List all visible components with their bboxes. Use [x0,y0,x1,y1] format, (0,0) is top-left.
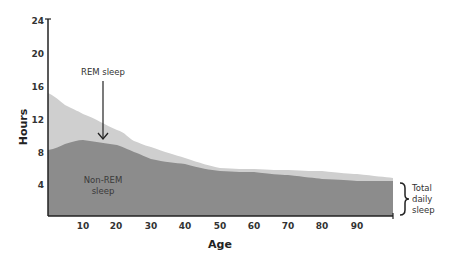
y-tick-20: 20 [31,49,44,59]
x-tick-80: 80 [316,221,329,231]
y-tick-16: 16 [31,82,44,92]
y-axis-title: Hours [17,108,30,145]
x-tick-40: 40 [179,221,192,231]
non-rem-label-line1: Non-REM [84,175,123,185]
x-axis-title: Age [208,238,232,251]
total-label-line1: Total [411,183,432,193]
y-tick-4: 4 [38,180,44,190]
x-tick-20: 20 [110,221,123,231]
brace-icon [400,183,409,215]
x-tick-70: 70 [282,221,295,231]
x-tick-60: 60 [248,221,261,231]
non-rem-label-line2: sleep [92,186,115,196]
y-tick-24: 24 [31,16,44,26]
total-label-line2: daily [412,194,432,204]
y-tick-12: 12 [31,115,44,125]
sleep-chart: 24 20 16 12 8 4 10 20 30 40 50 60 70 80 … [0,0,451,262]
x-tick-10: 10 [77,221,90,231]
rem-sleep-label: REM sleep [81,67,125,77]
x-tick-50: 50 [214,221,227,231]
x-tick-90: 90 [351,221,364,231]
total-label-line3: sleep [412,205,435,215]
x-tick-30: 30 [145,221,158,231]
y-tick-8: 8 [38,148,44,158]
